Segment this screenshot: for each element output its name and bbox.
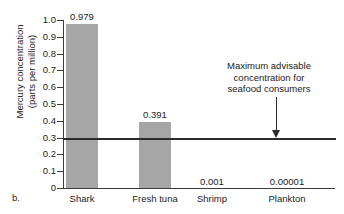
y-tick-label: 0.5: [16, 99, 56, 109]
y-tick-label: 0.2: [16, 149, 56, 159]
y-axis-line: [63, 20, 64, 189]
bar-value-fresh-tuna: 0.391: [130, 110, 180, 120]
y-tick-mark: [57, 87, 63, 88]
bar-shark: [66, 24, 98, 188]
y-tick-label: 0: [16, 183, 56, 193]
y-tick-label: 0.7: [16, 65, 56, 75]
y-tick-mark: [57, 154, 63, 155]
bar-value-shrimp: 0.001: [185, 177, 239, 187]
y-tick-label: 0.4: [16, 116, 56, 126]
y-tick-mark: [57, 188, 63, 189]
annotation-line-1: Maximum advisable: [196, 60, 342, 72]
y-tick-label: 0.3: [16, 133, 56, 143]
annotation-arrow-icon: [276, 97, 277, 132]
x-category-label-fresh-tuna: Fresh tuna: [125, 193, 185, 204]
x-axis-line: [63, 188, 335, 189]
x-category-label-shrimp: Shrimp: [185, 193, 239, 204]
y-tick-label: 1.0: [16, 15, 56, 25]
panel-letter: b.: [12, 192, 20, 203]
y-tick-mark: [57, 54, 63, 55]
y-tick-mark: [57, 121, 63, 122]
bar-fresh-tuna: [139, 122, 171, 188]
annotation-max-advisable: Maximum advisable concentration for seaf…: [196, 60, 342, 95]
annotation-line-2: concentration for: [196, 72, 342, 84]
y-tick-label: 0.9: [16, 32, 56, 42]
y-tick-mark: [57, 104, 63, 105]
y-tick-mark: [57, 37, 63, 38]
y-tick-mark: [57, 171, 63, 172]
y-tick-label: 0.1: [16, 166, 56, 176]
y-tick-label: 0.8: [16, 49, 56, 59]
mercury-concentration-bar-chart: Mercury concentration (parts per million…: [0, 0, 344, 214]
bar-value-shark: 0.979: [57, 12, 107, 22]
annotation-arrowhead-icon: [272, 130, 280, 138]
y-tick-mark: [57, 70, 63, 71]
annotation-line-3: seafood consumers: [196, 83, 342, 95]
x-category-label-plankton: Plankton: [255, 193, 319, 204]
x-category-label-shark: Shark: [57, 193, 107, 204]
reference-line-max-advisable: [63, 138, 336, 140]
bar-value-plankton: 0.00001: [255, 177, 319, 187]
y-tick-label: 0.6: [16, 82, 56, 92]
